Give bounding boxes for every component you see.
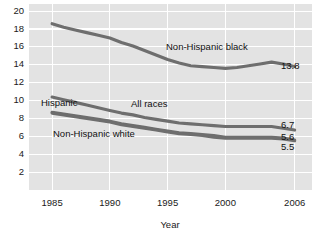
y-axis-tick-label: 6 <box>19 130 24 141</box>
y-axis-tick-label: 16 <box>13 40 24 51</box>
series-end-value-label: 5.5 <box>281 141 294 152</box>
x-axis-tick-label: 2000 <box>215 197 236 208</box>
y-axis-tick-label: 20 <box>13 5 24 16</box>
y-axis-tick-label: 12 <box>13 76 24 87</box>
series-end-value-label: 13.8 <box>281 60 300 71</box>
series-inline-label: Non-Hispanic black <box>166 41 248 52</box>
y-axis-tick-label: 18 <box>13 23 24 34</box>
chart-container: 2468101214161820 19851990199520002006 No… <box>0 0 315 233</box>
x-axis-tick-label: 2006 <box>284 197 305 208</box>
y-axis-tick-label: 2 <box>19 166 24 177</box>
x-axis-title: Year <box>160 219 179 230</box>
series-end-value-label: 6.7 <box>281 119 294 130</box>
y-axis-tick-label: 4 <box>19 148 24 159</box>
x-axis-tick-label: 1985 <box>42 197 63 208</box>
y-axis-tick-label: 10 <box>13 94 24 105</box>
series-inline-label: Hispanic <box>41 97 78 108</box>
x-axis-tick-labels: 19851990199520002006 <box>42 197 306 208</box>
x-axis-tick-label: 1990 <box>99 197 120 208</box>
line-chart: 2468101214161820 19851990199520002006 No… <box>0 0 315 233</box>
y-axis-tick-label: 14 <box>13 58 24 69</box>
y-axis-tick-labels: 2468101214161820 <box>13 5 24 177</box>
series-inline-label: All races <box>131 98 168 109</box>
y-axis-tick-label: 8 <box>19 112 24 123</box>
x-axis-tick-label: 1995 <box>157 197 178 208</box>
series-inline-label: Non-Hispanic white <box>53 128 135 139</box>
